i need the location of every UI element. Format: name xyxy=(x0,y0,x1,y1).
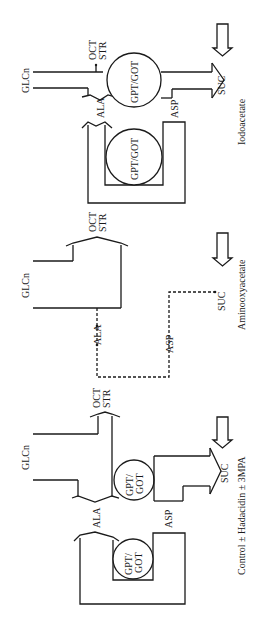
label-ala: ALA xyxy=(91,507,102,528)
label-suc: SUC xyxy=(219,463,230,483)
label-enzyme-main: GPT/GOT xyxy=(129,61,140,103)
label-glc: GLCn xyxy=(20,445,31,470)
label-glc: GLCn xyxy=(20,68,31,93)
panel-aminooxyacetate: GLCn OCT STR ALA ASP SUC Aminooxyacetate xyxy=(20,212,247,377)
label-enzyme-main-2: GOT xyxy=(134,473,145,494)
label-asp: ASP xyxy=(169,99,180,118)
caption-control: Control ± Hadacidin ± 3MPA xyxy=(236,456,247,575)
caption-aminooxyacetate: Aminooxyacetate xyxy=(236,259,247,330)
panel-control: GLCn OCT STR ALA ASP SUC GPT/ GOT GPT/ G… xyxy=(20,388,247,604)
panel-iodoacetate: GLCn OCT STR ALA ASP SUC GPT/GOT GPT/GOT… xyxy=(20,24,247,203)
caption-iodoacetate: Iodoacetate xyxy=(236,98,247,145)
label-suc: SUC xyxy=(216,75,227,95)
label-enzyme-cycle-2: GOT xyxy=(133,552,144,573)
label-asp: ASP xyxy=(163,509,174,528)
label-str: STR xyxy=(97,41,108,60)
label-enzyme-cycle: GPT/GOT xyxy=(129,138,140,180)
label-asp: ASP xyxy=(164,334,175,353)
label-str: STR xyxy=(97,213,108,232)
label-suc: SUC xyxy=(216,291,227,311)
label-glc: GLCn xyxy=(20,273,31,298)
metabolic-flux-diagram: GLCn OCT STR ALA ASP SUC GPT/GOT GPT/GOT… xyxy=(0,0,263,621)
label-ala: ALA xyxy=(95,97,106,118)
label-ala: ALA xyxy=(92,324,103,345)
label-str: STR xyxy=(101,389,112,408)
